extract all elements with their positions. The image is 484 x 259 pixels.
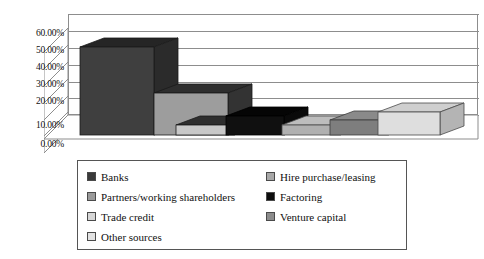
y-tick-label-0: 0.00%: [2, 139, 64, 149]
legend-swatch-venture-capital: [266, 212, 275, 221]
legend-item-other-sources[interactable]: Other sources: [87, 227, 267, 246]
legend-item-factoring[interactable]: Factoring: [266, 187, 406, 206]
legend-label-factoring: Factoring: [280, 191, 322, 203]
bar-group: [0, 0, 484, 160]
legend-swatch-other-sources: [87, 232, 96, 241]
legend-item-venture-capital[interactable]: Venture capital: [266, 207, 406, 226]
y-tick-label-30: 30.00%: [2, 79, 64, 89]
legend-column-right: Hire purchase/leasing Factoring Venture …: [266, 167, 406, 227]
legend-swatch-hire-purchase-leasing: [266, 172, 275, 181]
legend-column-left: Banks Partners/working shareholders Trad…: [87, 167, 267, 247]
legend-swatch-partners-working-shareholders: [87, 192, 96, 201]
legend-item-trade-credit[interactable]: Trade credit: [87, 207, 267, 226]
legend-label-other-sources: Other sources: [101, 231, 162, 243]
legend-label-venture-capital: Venture capital: [280, 211, 346, 223]
legend-item-banks[interactable]: Banks: [87, 167, 267, 186]
y-tick-label-50: 50.00%: [2, 45, 64, 55]
legend-swatch-banks: [87, 172, 96, 181]
legend-label-partners-working-shareholders: Partners/working shareholders: [101, 191, 235, 203]
legend-item-partners-working-shareholders[interactable]: Partners/working shareholders: [87, 187, 267, 206]
chart-figure: 60.00% 50.00% 40.00% 30.00% 20.00% 10.00…: [0, 0, 484, 259]
legend-swatch-factoring: [266, 192, 275, 201]
y-tick-label-20: 20.00%: [2, 96, 64, 106]
y-tick-label-60: 60.00%: [2, 28, 64, 38]
legend-label-trade-credit: Trade credit: [101, 211, 154, 223]
legend-label-hire-purchase-leasing: Hire purchase/leasing: [280, 171, 376, 183]
plot-area: 60.00% 50.00% 40.00% 30.00% 20.00% 10.00…: [0, 0, 484, 160]
bar-other-sources[interactable]: [378, 103, 483, 151]
legend-label-banks: Banks: [101, 171, 129, 183]
legend-item-hire-purchase-leasing[interactable]: Hire purchase/leasing: [266, 167, 406, 186]
y-axis: 60.00% 50.00% 40.00% 30.00% 20.00% 10.00…: [0, 0, 64, 160]
y-tick-label-40: 40.00%: [2, 62, 64, 72]
chart-legend: Banks Partners/working shareholders Trad…: [77, 160, 407, 250]
y-tick-label-10: 10.00%: [2, 120, 64, 130]
legend-swatch-trade-credit: [87, 212, 96, 221]
